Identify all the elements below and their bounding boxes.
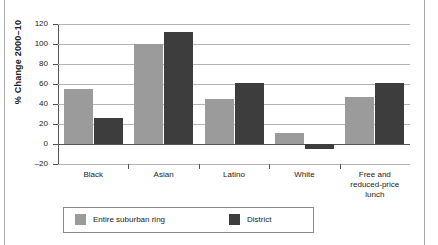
x-axis-category-label-line: Free and xyxy=(330,170,420,180)
bar xyxy=(134,44,163,144)
x-axis-tick xyxy=(199,164,200,169)
bar xyxy=(275,133,304,144)
bar xyxy=(164,32,193,144)
gridline xyxy=(58,44,410,45)
gridline xyxy=(58,144,410,145)
plot-area xyxy=(58,24,410,164)
y-axis-tick-label: 120 xyxy=(18,20,48,28)
y-axis-tick-label: 40 xyxy=(18,100,48,108)
gridline xyxy=(58,164,410,165)
legend-entry: District xyxy=(229,214,271,225)
y-axis-tick-label: 60 xyxy=(18,80,48,88)
bar xyxy=(205,99,234,144)
x-axis-category-label-line: reduced-price xyxy=(330,180,420,190)
x-axis-tick xyxy=(340,164,341,169)
legend-swatch xyxy=(229,214,240,225)
y-axis-tick-label: 20 xyxy=(18,120,48,128)
bar xyxy=(235,83,264,144)
bar xyxy=(345,97,374,144)
legend-entry: Entire suburban ring xyxy=(75,214,165,225)
chart-legend: Entire suburban ringDistrict xyxy=(63,207,314,233)
x-axis-tick xyxy=(128,164,129,169)
gridline xyxy=(58,64,410,65)
y-axis-tick-label: –20 xyxy=(18,160,48,168)
bar-chart-figure: % Change 2000–10 120100806040200–20 Blac… xyxy=(0,0,438,245)
bar xyxy=(64,89,93,144)
y-axis-tick-label: 0 xyxy=(18,140,48,148)
bar xyxy=(375,83,404,144)
x-axis-tick xyxy=(269,164,270,169)
bar xyxy=(305,144,334,149)
y-axis-tick-label: 80 xyxy=(18,60,48,68)
bar xyxy=(94,118,123,144)
legend-label: District xyxy=(247,215,271,224)
gridline xyxy=(58,24,410,25)
y-axis-tick-label: 100 xyxy=(18,40,48,48)
x-axis-category-label: Free andreduced-pricelunch xyxy=(330,170,420,200)
legend-swatch xyxy=(75,214,86,225)
legend-label: Entire suburban ring xyxy=(93,215,165,224)
x-axis-category-label-line: lunch xyxy=(330,190,420,200)
